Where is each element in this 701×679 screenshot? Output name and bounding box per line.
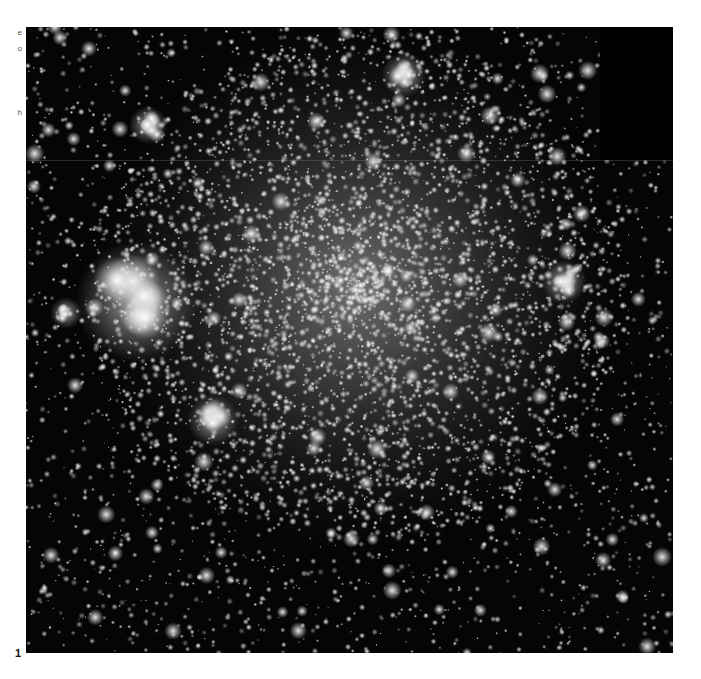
unobserved-dark-region xyxy=(600,27,673,160)
panel-label: 1 xyxy=(15,647,21,659)
star-cluster-image xyxy=(26,27,673,653)
margin-text-fragment: h xyxy=(0,108,22,118)
margin-text-fragment: o xyxy=(0,44,22,54)
margin-text-fragment: e xyxy=(0,28,22,38)
star-field xyxy=(26,27,673,653)
mosaic-seam xyxy=(26,160,673,161)
